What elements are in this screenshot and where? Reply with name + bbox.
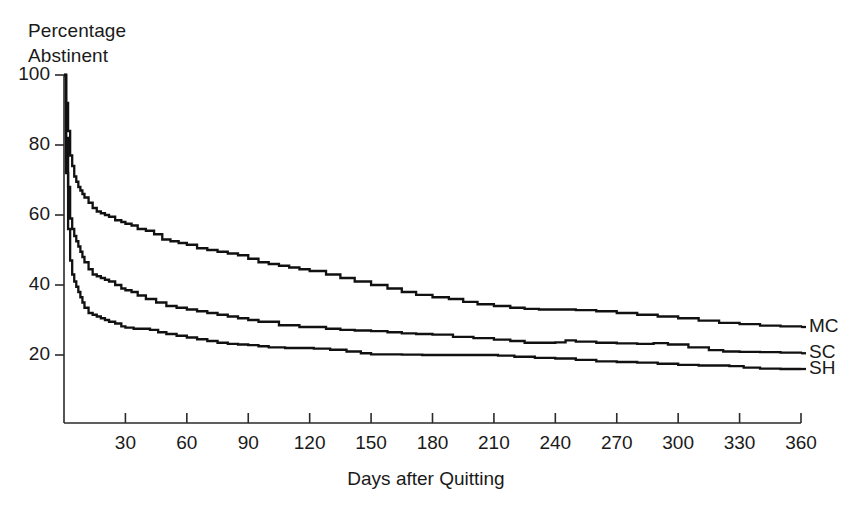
- series-label-sh: SH: [809, 357, 835, 379]
- x-tick-label: 360: [773, 432, 829, 454]
- y-axis-ticks: [55, 75, 64, 355]
- series-line-mc: [64, 75, 801, 327]
- x-axis-title: Days after Quitting: [0, 468, 852, 490]
- y-tick-label: 100: [4, 63, 50, 85]
- series-line-sh: [64, 75, 801, 369]
- axes: [64, 75, 801, 423]
- x-tick-label: 270: [589, 432, 645, 454]
- x-tick-label: 60: [159, 432, 215, 454]
- figure-container: PercentageAbstinent 20406080100 30609012…: [0, 0, 852, 520]
- x-tick-label: 150: [343, 432, 399, 454]
- y-tick-label: 60: [4, 203, 50, 225]
- series-line-sc: [64, 75, 801, 353]
- caption-sliver: [0, 508, 852, 520]
- x-axis-ticks: [125, 413, 801, 423]
- x-tick-label: 30: [97, 432, 153, 454]
- x-tick-label: 240: [527, 432, 583, 454]
- y-tick-label: 20: [4, 343, 50, 365]
- y-tick-label: 80: [4, 133, 50, 155]
- x-tick-label: 180: [405, 432, 461, 454]
- x-tick-label: 210: [466, 432, 522, 454]
- x-tick-label: 120: [282, 432, 338, 454]
- series-leader-lines: [801, 327, 806, 369]
- x-tick-label: 300: [650, 432, 706, 454]
- y-tick-label: 40: [4, 273, 50, 295]
- x-tick-label: 330: [712, 432, 768, 454]
- series-label-mc: MC: [809, 315, 839, 337]
- x-tick-label: 90: [220, 432, 276, 454]
- series-lines: [64, 75, 801, 369]
